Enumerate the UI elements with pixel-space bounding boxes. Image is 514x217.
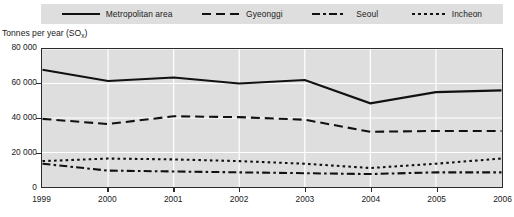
x-axis-tick-label: 2004 [361,195,380,203]
y-axis-tick-label: 0 [32,183,37,191]
legend-label: Incheon [452,10,482,18]
legend-label: Metropolitan area [106,10,173,18]
series-line-gyeonggi [42,116,501,132]
chart-figure: Metropolitan area Gyeonggi Seoul Incheon… [0,0,514,217]
line-dotted-icon [408,10,446,18]
y-axis-tick-labels: 020 00040 00060 00080 000 [0,0,37,217]
plot-svg [42,49,502,187]
x-axis-tick-mark [437,188,438,192]
x-axis-tick-mark [173,188,174,192]
x-axis-tick-mark [371,188,372,192]
series-line-metropolitan-area [42,70,501,104]
line-solid-icon [62,10,100,18]
x-axis-tick-label: 2005 [427,195,446,203]
series-line-seoul [42,164,501,174]
y-axis-title-subscript: x [81,32,84,39]
x-axis-tick-label: 2006 [493,195,512,203]
legend-item-incheon[interactable]: Incheon [408,10,482,18]
x-axis-tick-labels: 19992000200120022003200420052006 [0,195,514,209]
series-line-incheon [42,159,501,168]
data-series [42,70,501,174]
y-axis-tick-mark [36,118,41,119]
line-dashed-icon [202,10,240,18]
x-axis-tick-label: 2000 [98,195,117,203]
x-axis-tick-label: 2003 [296,195,315,203]
legend-item-metropolitan-area[interactable]: Metropolitan area [62,10,173,18]
x-axis-tick-mark [305,188,306,192]
legend-label: Gyeonggi [246,10,283,18]
x-axis-tick-mark [239,188,240,192]
y-axis-tick-mark [36,153,41,154]
y-axis-tick-label: 40 000 [11,113,37,121]
x-axis-tick-label: 2001 [164,195,183,203]
legend-item-gyeonggi[interactable]: Gyeonggi [202,10,283,18]
legend-item-seoul[interactable]: Seoul [312,10,378,18]
y-axis-tick-mark [36,83,41,84]
plot-area [41,48,503,188]
legend-label: Seoul [356,10,378,18]
line-dashdot-icon [312,10,350,18]
y-axis-tick-label: 80 000 [11,43,37,51]
y-axis-tick-label: 60 000 [11,78,37,86]
x-axis-tick-mark [107,188,108,192]
x-axis-tick-label: 2002 [230,195,249,203]
x-axis-tick-label: 1999 [32,195,51,203]
chart-legend: Metropolitan area Gyeonggi Seoul Incheon [41,4,503,24]
y-axis-tick-label: 20 000 [11,148,37,156]
